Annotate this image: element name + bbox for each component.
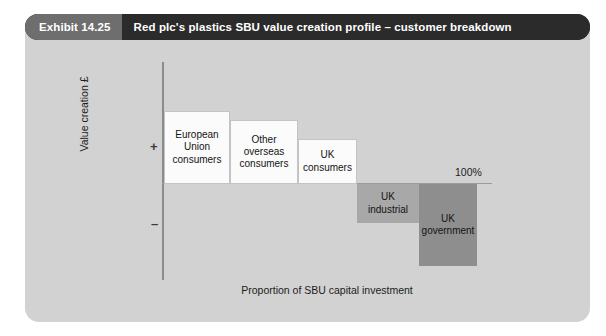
bar-uk-consumers: UKconsumers — [298, 139, 357, 184]
bar-other-overseas-consumers: Otheroverseasconsumers — [230, 120, 298, 184]
exhibit-header: Exhibit 14.25 Red plc's plastics SBU val… — [25, 14, 590, 40]
x-axis-title: Proportion of SBU capital investment — [162, 284, 492, 296]
exhibit-title: Red plc's plastics SBU value creation pr… — [122, 14, 590, 40]
bar-label: Otheroverseasconsumers — [240, 134, 289, 171]
bar-label: EuropeanUnionconsumers — [173, 129, 222, 166]
exhibit-number-label: Exhibit 14.25 — [25, 14, 122, 40]
bar-label: UKgovernment — [422, 213, 475, 237]
bar-label: UKindustrial — [368, 191, 408, 215]
y-axis-positive-sign: + — [150, 140, 158, 153]
bar-label: UKconsumers — [303, 149, 352, 173]
exhibit-screenshot: Exhibit 14.25 Red plc's plastics SBU val… — [0, 0, 606, 336]
bar-uk-government: UKgovernment — [419, 184, 477, 266]
x-axis-end-label: 100% — [455, 166, 482, 178]
bar-european-union-consumers: EuropeanUnionconsumers — [164, 111, 230, 184]
y-axis-negative-sign: – — [151, 217, 158, 230]
bar-uk-industrial: UKindustrial — [357, 184, 419, 223]
y-axis-title: Value creation £ — [78, 49, 90, 179]
value-creation-chart: + – Value creation £ EuropeanUnionconsum… — [25, 40, 590, 322]
